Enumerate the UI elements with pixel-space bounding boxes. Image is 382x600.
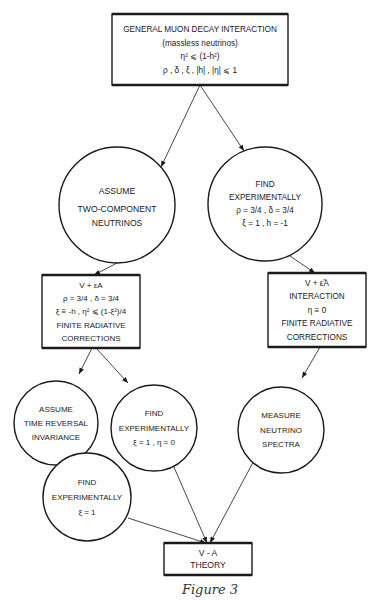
- node-label-line: EXPERIMENTALLY: [119, 424, 190, 433]
- node-label-line: NEUTRINOS: [92, 218, 143, 228]
- edge-general-to-find-exp-1: [200, 85, 244, 151]
- node-label-line: CORRECTIONS: [61, 334, 120, 343]
- edge-v-plus-eps-a-to-assume-time-reversal: [79, 348, 92, 374]
- node-label-line: SPECTRA: [262, 440, 300, 449]
- arrowhead-icon: [161, 161, 166, 167]
- connector-line: [128, 518, 206, 543]
- nodes-layer: GENERAL MUON DECAY INTERACTION(massless …: [14, 14, 366, 575]
- node-assume-two-component: ASSUMETWO-COMPONENTNEUTRINOS: [59, 147, 175, 263]
- node-label-line: FINITE RADIATIVE: [56, 321, 125, 330]
- connector-line: [200, 85, 244, 151]
- connector-line: [170, 458, 207, 543]
- node-find-exp-2: FINDEXPERIMENTALLYξ = 1 , η = 0: [111, 385, 197, 471]
- node-label-line: ρ = 3/4 , δ = 3/4: [236, 206, 294, 215]
- node-label-line: TWO-COMPONENT: [78, 204, 158, 214]
- node-label-line: ρ , δ , ξ , |h| , |η| ⩽ 1: [163, 66, 237, 75]
- node-label-line: ρ = 3/4 , δ = 3/4: [63, 294, 120, 303]
- node-label-line: ASSUME: [39, 405, 73, 414]
- node-label-line: GENERAL MUON DECAY INTERACTION: [123, 25, 277, 34]
- node-label-line: THEORY: [190, 560, 226, 570]
- node-label-line: V - A: [199, 548, 218, 558]
- edge-measure-spectra-to-v-minus-a: [210, 453, 258, 543]
- edge-assume-two-component-to-v-plus-eps-a: [94, 263, 117, 275]
- node-label-line: EXPERIMENTALLY: [229, 193, 302, 202]
- node-label-line: INTERACTION: [289, 292, 345, 301]
- node-label-line: NEUTRINO: [260, 426, 302, 435]
- circle-shape: [208, 147, 322, 261]
- diagram-canvas: GENERAL MUON DECAY INTERACTION(massless …: [0, 0, 382, 600]
- node-label-line: (massless neutrinos): [162, 39, 238, 48]
- node-v-minus-a: V - ATHEORY: [164, 543, 252, 575]
- node-label-line: ξ ≡ -h , η² ⩽ (1-ξ²)/4: [56, 307, 127, 316]
- node-v-plus-eps-tilde-a: V + ε̃AINTERACTIONη ≡ 0FINITE RADIATIVEC…: [268, 273, 366, 347]
- node-label-line: FIND: [145, 409, 164, 418]
- node-label-line: η ≡ 0: [308, 306, 327, 315]
- node-label-line: FIND: [78, 478, 97, 487]
- node-measure-spectra: MEASURENEUTRINOSPECTRA: [238, 387, 324, 473]
- figure-caption: Figure 3: [181, 582, 238, 597]
- node-find-exp-1: FINDEXPERIMENTALLYρ = 3/4 , δ = 3/4ξ = 1…: [208, 147, 322, 261]
- node-label-line: TIME REVERSAL: [24, 419, 89, 428]
- arrowhead-icon: [239, 145, 244, 151]
- node-find-exp-3: FINDEXPERIMENTALLYξ = 1: [43, 453, 131, 541]
- edge-find-exp-1-to-v-plus-eps-tilde-a: [290, 256, 315, 273]
- node-label-line: FIND: [255, 180, 274, 189]
- node-label-line: EXPERIMENTALLY: [52, 493, 123, 502]
- edge-v-plus-eps-tilde-a-to-measure-spectra: [302, 347, 320, 378]
- node-label-line: V + εA: [79, 281, 103, 290]
- flowchart-diagram: GENERAL MUON DECAY INTERACTION(massless …: [0, 0, 382, 600]
- node-label-line: ξ = 1: [78, 508, 96, 517]
- node-label-line: INVARIANCE: [32, 433, 80, 442]
- node-label-line: FINITE RADIATIVE: [282, 319, 353, 328]
- connector-line: [161, 85, 200, 167]
- node-v-plus-eps-a: V + εAρ = 3/4 , δ = 3/4ξ ≡ -h , η² ⩽ (1-…: [42, 275, 140, 348]
- node-label-line: ASSUME: [99, 186, 136, 196]
- node-label-line: ξ = 1 , h = -1: [242, 219, 288, 228]
- arrowhead-icon: [302, 372, 307, 378]
- arrowhead-icon: [79, 368, 84, 374]
- edge-find-exp-2-to-v-minus-a: [170, 458, 207, 543]
- node-label-line: MEASURE: [261, 411, 301, 420]
- node-label-line: η² ⩽ (1-h²): [181, 52, 220, 61]
- connector-line: [210, 453, 258, 543]
- edge-find-exp-3-to-v-minus-a: [128, 518, 206, 543]
- node-label-line: V + ε̃A: [305, 279, 329, 288]
- node-general: GENERAL MUON DECAY INTERACTION(massless …: [112, 14, 288, 85]
- node-label-line: CORRECTIONS: [287, 333, 348, 342]
- edge-v-plus-eps-a-to-find-exp-2: [96, 348, 128, 383]
- node-label-line: ξ = 1 , η = 0: [133, 438, 175, 447]
- connector-line: [96, 348, 128, 383]
- edge-general-to-assume-two-component: [161, 85, 200, 167]
